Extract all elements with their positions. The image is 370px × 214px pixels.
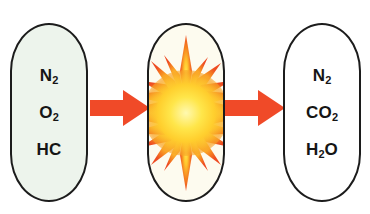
stage-capsule-inputs: N2 O2 HC xyxy=(10,23,88,202)
formula-nitrogen: N2 xyxy=(40,67,59,84)
formula-subscript: 2 xyxy=(318,148,324,160)
formula-carbon-dioxide: CO2 xyxy=(306,104,338,121)
formula-base: N xyxy=(313,66,325,85)
formula-subscript: 2 xyxy=(53,111,59,123)
formula-hydrocarbon: HC xyxy=(37,141,62,158)
formula-oxygen: O2 xyxy=(39,104,59,121)
formula-base: N xyxy=(40,66,52,85)
formula-base: HC xyxy=(37,140,62,159)
arrow-right-icon-inputs-to-process xyxy=(90,88,150,128)
formula-list-outputs: N2 CO2 H2O xyxy=(285,67,359,158)
stage-capsule-process xyxy=(147,23,225,202)
formula-subscript: 2 xyxy=(52,74,58,86)
stage-capsule-outputs: N2 CO2 H2O xyxy=(283,23,361,202)
formula-base: O xyxy=(39,103,52,122)
formula-base: H xyxy=(306,140,318,159)
formula-subscript: 2 xyxy=(325,74,331,86)
combustion-process-diagram: N2 O2 HC xyxy=(0,0,370,214)
arrow-right-icon-process-to-outputs xyxy=(225,88,285,128)
formula-tail: O xyxy=(325,140,338,159)
formula-subscript: 2 xyxy=(332,111,338,123)
starburst-glow xyxy=(147,70,225,156)
formula-water: H2O xyxy=(306,141,338,158)
formula-nitrogen: N2 xyxy=(313,67,332,84)
formula-base: CO xyxy=(306,103,332,122)
formula-list-inputs: N2 O2 HC xyxy=(12,67,86,158)
